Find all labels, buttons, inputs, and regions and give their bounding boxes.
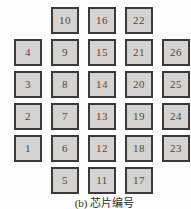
chip-number: 5 <box>62 175 68 186</box>
chip-number: 16 <box>96 15 108 26</box>
chip-number: 14 <box>96 79 108 90</box>
empty-cell <box>14 7 42 34</box>
chip-26: 26 <box>162 39 190 66</box>
chip-16: 16 <box>88 7 116 34</box>
chip-number: 20 <box>133 79 145 90</box>
chip-7: 7 <box>51 103 79 130</box>
chip-11: 11 <box>88 167 116 194</box>
chip-number: 4 <box>25 47 31 58</box>
empty-cell <box>14 167 42 194</box>
chip-14: 14 <box>88 71 116 98</box>
chip-number: 22 <box>133 15 145 26</box>
chip-4: 4 <box>14 39 42 66</box>
chip-25: 25 <box>162 71 190 98</box>
chip-9: 9 <box>51 39 79 66</box>
chip-number: 10 <box>59 15 71 26</box>
chip-number: 2 <box>25 111 31 122</box>
chip-6: 6 <box>51 135 79 162</box>
chip-24: 24 <box>162 103 190 130</box>
chip-grid: 1016224915212638142025271319241612182351… <box>14 7 190 194</box>
chip-23: 23 <box>162 135 190 162</box>
chip-number: 17 <box>133 175 145 186</box>
empty-cell <box>162 7 190 34</box>
chip-number: 8 <box>62 79 68 90</box>
chip-8: 8 <box>51 71 79 98</box>
chip-number: 3 <box>25 79 31 90</box>
chip-15: 15 <box>88 39 116 66</box>
chip-17: 17 <box>125 167 153 194</box>
chip-number: 26 <box>170 47 182 58</box>
chip-10: 10 <box>51 7 79 34</box>
chip-22: 22 <box>125 7 153 34</box>
chip-number: 9 <box>62 47 68 58</box>
chip-number: 19 <box>133 111 145 122</box>
chip-13: 13 <box>88 103 116 130</box>
chip-number: 25 <box>170 79 182 90</box>
chip-number: 24 <box>170 111 182 122</box>
chip-18: 18 <box>125 135 153 162</box>
chip-3: 3 <box>14 71 42 98</box>
chip-number: 12 <box>96 143 108 154</box>
chip-20: 20 <box>125 71 153 98</box>
chip-number: 11 <box>96 175 108 186</box>
chip-number: 13 <box>96 111 108 122</box>
chip-19: 19 <box>125 103 153 130</box>
chip-numbering-figure: 1016224915212638142025271319241612182351… <box>0 0 191 209</box>
chip-number: 15 <box>96 47 108 58</box>
chip-number: 23 <box>170 143 182 154</box>
chip-12: 12 <box>88 135 116 162</box>
chip-number: 6 <box>62 143 68 154</box>
figure-caption: (b) 芯片编号 <box>18 194 191 209</box>
chip-21: 21 <box>125 39 153 66</box>
chip-number: 18 <box>133 143 145 154</box>
chip-number: 7 <box>62 111 68 122</box>
chip-number: 21 <box>133 47 145 58</box>
chip-5: 5 <box>51 167 79 194</box>
chip-number: 1 <box>25 143 31 154</box>
chip-2: 2 <box>14 103 42 130</box>
chip-1: 1 <box>14 135 42 162</box>
empty-cell <box>162 167 190 194</box>
